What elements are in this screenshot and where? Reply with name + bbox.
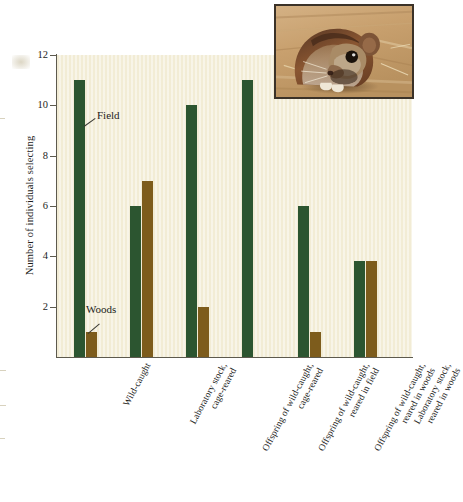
bar-woods-offspring-cage-reared: [198, 307, 209, 357]
bar-field-offspring-reared-in-field: [242, 80, 253, 357]
x-label-offspring-reared-in-field: Offspring of wild-caught,reared in field: [316, 361, 382, 458]
page-margin-mark: [0, 118, 5, 119]
bar-woods-lab-stock-reared-in-woods: [366, 261, 377, 357]
bar-field-lab-stock-reared-in-woods: [354, 261, 365, 357]
y-tick-label-12: 12: [26, 49, 48, 60]
y-tick-8: [50, 156, 57, 157]
bar-field-offspring-reared-in-woods: [298, 206, 309, 357]
x-axis-labels: Wild-caught Laboratory stock,cage-reared…: [0, 357, 425, 502]
x-label-line1: Offspring of wild-caught,: [260, 361, 315, 453]
x-label-offspring-cage-reared: Offspring of wild-caught,cage-reared: [260, 361, 326, 458]
x-label-wild-caught: Wild-caught: [121, 361, 153, 408]
bar-field-wild-caught: [74, 80, 85, 357]
x-label-lab-stock-cage-reared: Laboratory stock,cage-reared: [188, 361, 239, 431]
y-axis-title: Number of individuals selecting: [24, 91, 35, 321]
y-tick-2: [50, 307, 57, 308]
bar-woods-offspring-reared-in-woods: [310, 332, 321, 357]
x-label-line1: Offspring of wild-caught,: [316, 361, 371, 453]
deer-mouse-photo-image: [276, 6, 412, 97]
y-tick-12: [50, 55, 57, 56]
y-tick-4: [50, 256, 57, 257]
deer-mouse-photo-inset: [274, 4, 414, 99]
bar-woods-wild-caught: [86, 332, 97, 357]
y-tick-10: [50, 105, 57, 106]
bar-woods-lab-stock-cage-reared: [142, 181, 153, 357]
x-label-line1: Wild-caught: [121, 361, 152, 408]
y-tick-6: [50, 206, 57, 207]
bar-field-offspring-cage-reared: [186, 105, 197, 357]
annotation-woods-label: Woods: [86, 303, 116, 315]
bar-field-lab-stock-cage-reared: [130, 206, 141, 357]
annotation-field-label: Field: [97, 109, 120, 121]
